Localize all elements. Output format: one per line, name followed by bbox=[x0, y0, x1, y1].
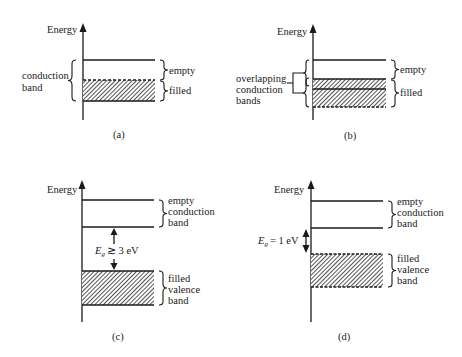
panel-c: Energy Eg≳ 3 eV empty conduction band fi… bbox=[47, 180, 215, 343]
brace-connector bbox=[293, 73, 303, 93]
band-gap-label: Eg= 1 eV bbox=[257, 235, 299, 248]
band-gap-label: Eg≳ 3 eV bbox=[94, 245, 139, 258]
energy-band-diagram: Energy conduction band empty filled (a) … bbox=[0, 0, 462, 357]
arrow-up-icon bbox=[310, 24, 317, 33]
brace-left-lower bbox=[302, 78, 309, 107]
empty-label: empty bbox=[400, 64, 427, 75]
brace-right-conduction bbox=[388, 201, 396, 228]
arrow-down-icon bbox=[303, 245, 310, 253]
conduction-label-line2: conduction bbox=[168, 206, 215, 217]
conduction-label-line3: band bbox=[168, 217, 189, 228]
brace-right-empty bbox=[160, 60, 168, 80]
conduction-label-line2: conduction bbox=[397, 207, 444, 218]
valence-label-line3: band bbox=[397, 275, 418, 286]
valence-label-line3: band bbox=[168, 295, 189, 306]
brace-right-valence bbox=[159, 271, 167, 305]
arrow-down-icon bbox=[111, 263, 118, 270]
panel-a: Energy conduction band empty filled (a) bbox=[22, 23, 196, 141]
brace-right-filled bbox=[160, 81, 168, 101]
conduction-label-line3: band bbox=[397, 218, 418, 229]
caption-d: (d) bbox=[338, 331, 351, 343]
valence-band-filled bbox=[311, 254, 383, 287]
valence-label-line2: valence bbox=[168, 284, 200, 295]
energy-axis-label: Energy bbox=[274, 184, 305, 195]
caption-c: (c) bbox=[112, 331, 124, 343]
left-label-line3: bands bbox=[236, 95, 261, 106]
left-label-line1: conduction bbox=[22, 70, 69, 81]
valence-band-filled bbox=[82, 271, 154, 305]
brace-right-empty bbox=[391, 60, 399, 79]
panel-d: Energy Eg= 1 eV empty conduction band fi… bbox=[257, 180, 444, 343]
filled-region bbox=[83, 80, 155, 101]
brace-right-conduction bbox=[159, 200, 167, 227]
arrow-up-icon bbox=[79, 180, 86, 189]
energy-axis-label: Energy bbox=[277, 26, 308, 37]
brace-left bbox=[68, 60, 76, 101]
valence-label-line2: valence bbox=[397, 264, 429, 275]
left-label-line1: overlapping bbox=[236, 73, 287, 84]
brace-right-valence bbox=[388, 254, 396, 287]
valence-label-line1: filled bbox=[397, 253, 420, 264]
filled-label: filled bbox=[169, 85, 192, 96]
energy-axis-label: Energy bbox=[47, 24, 78, 35]
empty-label: empty bbox=[169, 65, 196, 76]
arrow-up-icon bbox=[111, 228, 118, 235]
arrow-up-icon bbox=[80, 23, 87, 32]
panel-b: Energy overlapping conduction bands empt… bbox=[236, 24, 427, 142]
brace-right-filled bbox=[391, 80, 399, 107]
energy-axis-label: Energy bbox=[47, 184, 78, 195]
valence-label-line1: filled bbox=[168, 273, 191, 284]
arrow-up-icon bbox=[303, 229, 310, 237]
filled-region bbox=[313, 79, 386, 107]
left-label-line2: band bbox=[22, 82, 43, 93]
filled-label: filled bbox=[400, 87, 423, 98]
conduction-label-line1: empty bbox=[168, 195, 195, 206]
left-label-line2: conduction bbox=[236, 84, 283, 95]
conduction-label-line1: empty bbox=[397, 196, 424, 207]
caption-a: (a) bbox=[113, 129, 125, 141]
arrow-up-icon bbox=[308, 180, 315, 189]
caption-b: (b) bbox=[344, 130, 357, 142]
